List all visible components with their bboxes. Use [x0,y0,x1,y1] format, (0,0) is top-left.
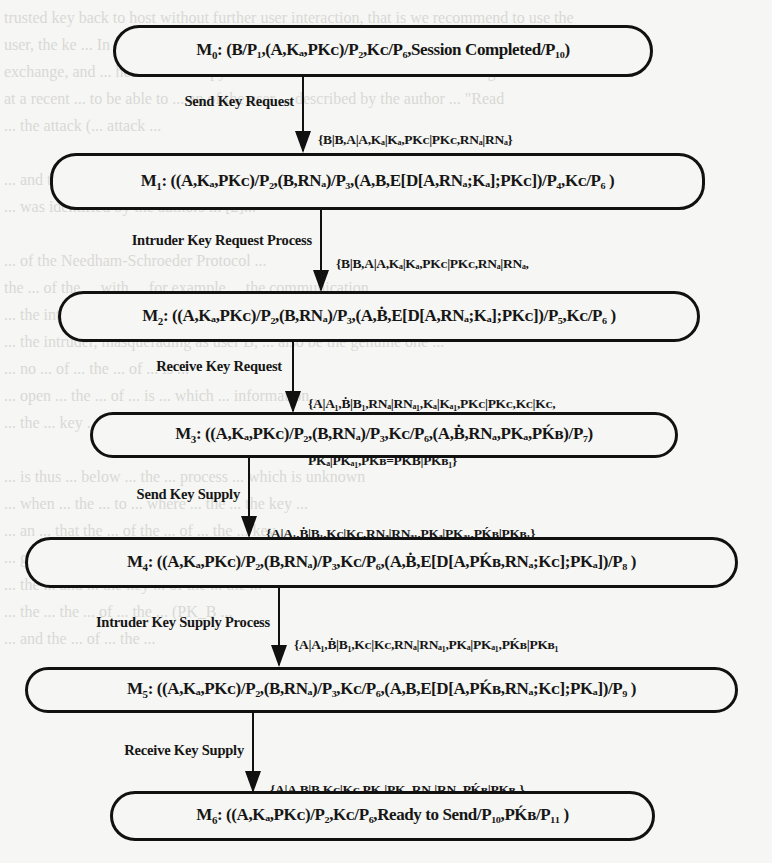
transition-arrow-intruder-key-supply [278,588,280,665]
state-m2-text: M2: ((A,Kₐ,PKᴄ)/P₂,(B,RNₐ)/P₃,(A,Ḃ,E[D[A… [142,306,616,327]
binding-line: {B|B,A|A,Kₐ|Kₐ,PKᴄ|PKᴄ,RNₐ|RNₐ, [336,254,573,273]
binding-line: {A|A₁,Ḃ|B₁,Kᴄ|Kᴄ,RNₐ|RNₐ₁,PKₐ|PKₐ₁,PḰʙ|P… [294,635,594,654]
binding-line: {B|B,A|A,Kₐ|Kₐ,PKᴄ|PKᴄ,RNₐ|RNₐ} [318,130,513,149]
state-m5: M5: ((A,Kₐ,PKᴄ)/P₂,(B,RNₐ)/P₃,Kᴄ/P₆,(A,B… [25,667,738,713]
transition-arrow-receive-key-request [292,342,294,411]
transition-arrow-receive-key-supply [252,713,254,791]
state-m6-text: M6: ((A,Kₐ,PKᴄ)/P₂,Kᴄ/P₆,Ready to Send/P… [196,805,569,826]
transition-arrow-send-key-request [302,77,304,151]
state-m4: M4: ((A,Kₐ,PKᴄ)/P₂,(B,RNₐ)/P₃,Kᴄ/P₆,(A,Ḃ… [25,537,738,588]
transition-label-send-key-supply: Send Key Supply [137,486,240,503]
transition-label-receive-key-request: Receive Key Request [156,358,282,375]
state-m1: M1: ((A,Kₐ,PKᴄ)/P₂,(B,RNₐ)/P₃,(A,B,E[D[A… [50,153,705,210]
binding-line: {A|A₁,Ḃ|B₁,RNₐ|RNₐ₁,Kₐ|Kₐ₁,PKᴄ|PKᴄ,Kᴄ|Kᴄ… [308,394,555,413]
transition-label-intruder-key-request: Intruder Key Request Process [132,232,312,249]
state-m3: M3: ((A,Kₐ,PKᴄ)/P₂,(B,RNₐ)/P₃,Kᴄ/P₆,(A,Ḃ… [90,412,678,458]
state-m4-text: M4: ((A,Kₐ,PKᴄ)/P₂,(B,RNₐ)/P₃,Kᴄ/P₆,(A,Ḃ… [127,552,636,573]
state-m2: M2: ((A,Kₐ,PKᴄ)/P₂,(B,RNₐ)/P₃,(A,Ḃ,E[D[A… [58,291,700,342]
state-m6: M6: ((A,Kₐ,PKᴄ)/P₂,Kᴄ/P₆,Ready to Send/P… [110,791,655,841]
transition-arrow-send-key-supply [248,458,250,536]
transition-label-send-key-request: Send Key Request [184,93,294,110]
state-m0: M0: (B/P₁,(A,Kₐ,PKᴄ)/P₂,Kᴄ/P₆,Session Co… [113,25,653,77]
transition-label-receive-key-supply: Receive Key Supply [124,742,244,759]
transition-arrow-intruder-key-request [320,210,322,290]
state-m5-text: M5: ((A,Kₐ,PKᴄ)/P₂,(B,RNₐ)/P₃,Kᴄ/P₆,(A,B… [127,679,636,700]
state-m3-text: M3: ((A,Kₐ,PKᴄ)/P₂,(B,RNₐ)/P₃,Kᴄ/P₆,(A,Ḃ… [175,424,593,445]
transition-label-intruder-key-supply: Intruder Key Supply Process [96,614,270,631]
state-m1-text: M1: ((A,Kₐ,PKᴄ)/P₂,(B,RNₐ)/P₃,(A,B,E[D[A… [141,171,615,192]
state-m0-text: M0: (B/P₁,(A,Kₐ,PKᴄ)/P₂,Kᴄ/P₆,Session Co… [196,40,569,61]
